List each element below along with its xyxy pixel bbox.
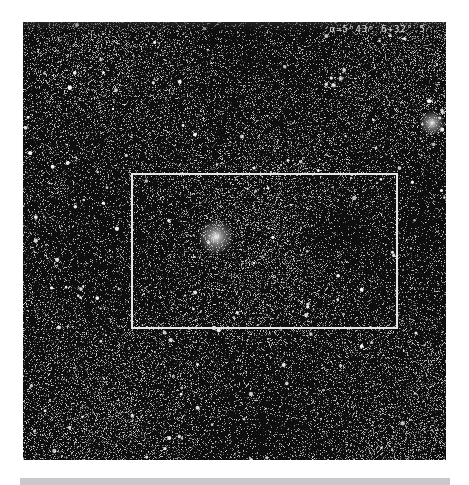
bottom-band xyxy=(20,478,450,485)
inset-rectangle xyxy=(131,173,398,329)
coordinate-label: α=5ʰ43ᵐ δ+32°.5 xyxy=(330,24,426,34)
